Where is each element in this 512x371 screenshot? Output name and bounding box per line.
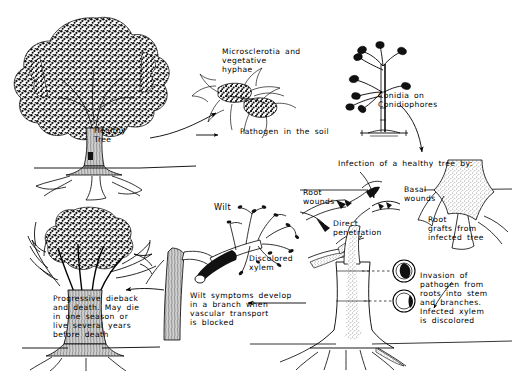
label-direct-penetration: Direct penetration — [333, 220, 382, 238]
root-graft-junction — [354, 201, 400, 222]
infection-illustration — [300, 160, 512, 268]
direct-penetration-mark — [316, 218, 330, 232]
label-pathogen-in-soil: Pathogen in the soil — [240, 128, 329, 137]
label-wilt-symptoms: Wilt symptoms develop in a branch when v… — [190, 292, 292, 328]
xylem-cross-section-lower — [393, 290, 415, 312]
label-healthy-tree: Healthy Tree — [94, 127, 126, 145]
arrow-tree-to-soil — [150, 113, 216, 138]
label-microsclerotia: Microsclerotia and vegetative hyphae — [222, 48, 301, 75]
conidiophore-illustration — [346, 42, 412, 136]
xylem-cross-section-upper — [393, 260, 415, 282]
label-root-wounds: Root wounds — [303, 189, 335, 207]
arrow-cycle-return — [146, 260, 164, 284]
label-basal-wounds: Basal wounds — [404, 186, 436, 204]
arrow-wilt-to-dieback — [126, 289, 164, 291]
label-root-grafts: Root grafts from infected tree — [428, 216, 484, 243]
label-discolored-xylem: Discolored xylem — [249, 255, 293, 273]
label-wilt: Wilt — [214, 203, 231, 213]
disease-cycle-diagram: Healthy Tree Microsclerotia and vegetati… — [0, 0, 512, 371]
healthy-tree-illustration — [14, 17, 196, 200]
label-progressive-dieback: Progressive dieback and death. May die i… — [53, 295, 139, 340]
label-invasion-of-pathogen: Invasion of pathogen from roots into ste… — [420, 272, 488, 326]
label-conidia-conidiophores: Conidia on Conidiophores — [378, 92, 438, 110]
label-infection-heading: Infection of a healthy tree by: — [338, 160, 473, 169]
arrow-conidia-to-infection — [400, 105, 422, 152]
